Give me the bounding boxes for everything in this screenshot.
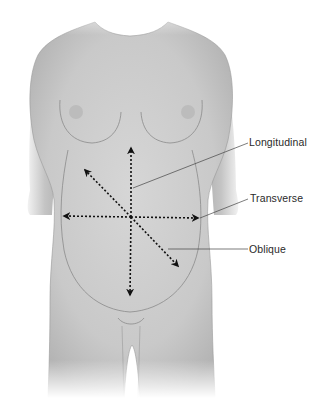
label-longitudinal: Longitudinal	[249, 136, 307, 148]
areola-right	[181, 105, 195, 119]
abdomen-diagram: Longitudinal Transverse Oblique	[0, 0, 325, 398]
label-oblique: Oblique	[249, 243, 286, 255]
label-transverse: Transverse	[250, 192, 303, 204]
areola-left	[69, 105, 83, 119]
torso	[30, 22, 233, 398]
